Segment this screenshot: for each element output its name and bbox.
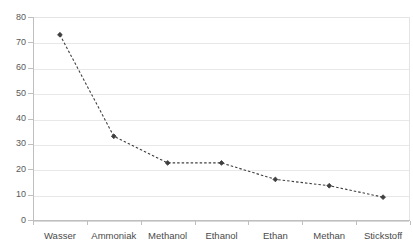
y-tick-70	[28, 42, 33, 43]
plot-area	[33, 17, 410, 220]
x-tick-5	[302, 221, 303, 225]
y-axis-tick-labels: 01020304050607080	[0, 0, 26, 252]
y-tick-50	[28, 93, 33, 94]
gridline-30	[33, 145, 409, 146]
x-tick-4	[248, 221, 249, 225]
gridline-50	[33, 94, 409, 95]
y-tick-label: 50	[2, 89, 26, 98]
y-tick-label: 60	[2, 63, 26, 72]
gridline-70	[33, 43, 409, 44]
x-tick-0	[33, 221, 34, 225]
x-category-label: Stickstoff	[364, 230, 402, 242]
x-axis-category-labels: WasserAmmoniakMethanolEthanolEthanMethan…	[33, 230, 410, 250]
y-tick-label: 10	[2, 190, 26, 199]
x-tick-7	[410, 221, 411, 225]
x-tick-6	[356, 221, 357, 225]
y-tick-label: 0	[2, 216, 26, 225]
x-category-label: Ethanol	[205, 230, 237, 242]
line-chart: 01020304050607080 WasserAmmoniakMethanol…	[0, 0, 413, 252]
x-category-label: Ammoniak	[91, 230, 136, 242]
gridline-40	[33, 120, 409, 121]
y-tick-40	[28, 119, 33, 120]
y-tick-20	[28, 169, 33, 170]
gridline-60	[33, 69, 409, 70]
gridline-20	[33, 170, 409, 171]
y-tick-60	[28, 68, 33, 69]
y-tick-label: 30	[2, 139, 26, 148]
x-tick-3	[195, 221, 196, 225]
x-axis-line	[33, 220, 410, 221]
x-category-label: Methan	[313, 230, 345, 242]
x-tick-1	[87, 221, 88, 225]
gridline-0	[33, 221, 409, 222]
y-tick-80	[28, 17, 33, 18]
y-tick-label: 80	[2, 13, 26, 22]
y-tick-label: 70	[2, 38, 26, 47]
y-axis-line	[33, 17, 34, 221]
gridline-10	[33, 196, 409, 197]
x-category-label: Methanol	[148, 230, 187, 242]
y-tick-label: 40	[2, 114, 26, 123]
y-tick-label: 20	[2, 165, 26, 174]
y-tick-30	[28, 144, 33, 145]
x-tick-2	[141, 221, 142, 225]
y-tick-10	[28, 195, 33, 196]
x-category-label: Ethan	[263, 230, 288, 242]
x-category-label: Wasser	[44, 230, 76, 242]
